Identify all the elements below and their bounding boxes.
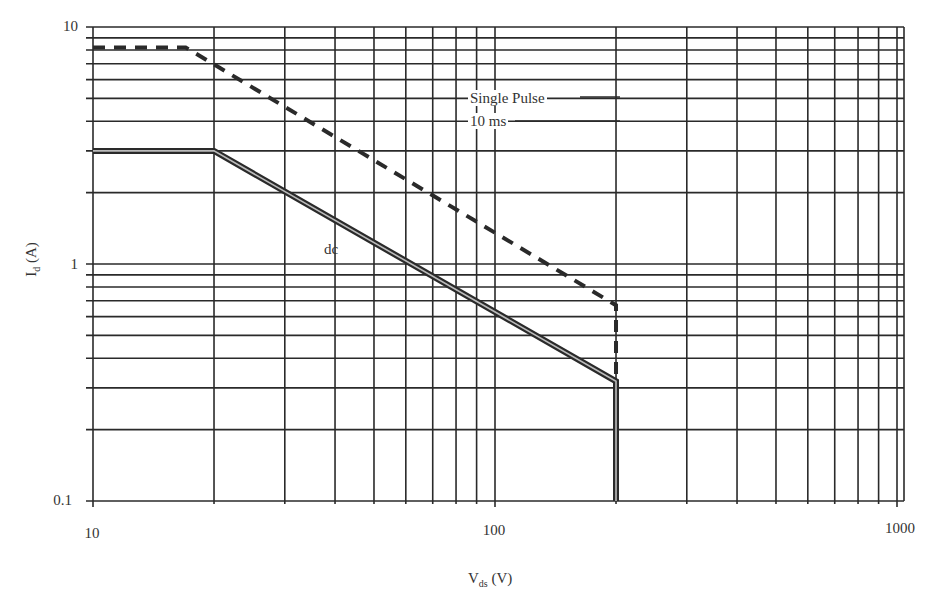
x-tick-1000: 1000 xyxy=(870,520,930,537)
y-tick-1: 1 xyxy=(38,256,78,273)
x-axis-title: Vds (V) xyxy=(468,570,512,589)
annotation-10ms: 10 ms xyxy=(468,113,508,129)
x-tick-100: 100 xyxy=(464,522,524,539)
annotation-single-pulse: Single Pulse xyxy=(468,90,547,106)
series-dc-inner xyxy=(93,151,616,501)
y-axis-title-unit: (A) xyxy=(23,242,39,267)
y-axis-title: Id (A) xyxy=(23,230,42,290)
annotation-dc: dc xyxy=(322,241,340,257)
x-tick-10: 10 xyxy=(62,525,122,542)
x-axis-title-unit: (V) xyxy=(488,570,513,586)
x-axis-title-sub: ds xyxy=(479,578,488,589)
x-axis-title-main: V xyxy=(468,570,479,586)
y-tick-10: 10 xyxy=(38,18,78,35)
y-tick-0-1: 0.1 xyxy=(32,492,72,509)
y-axis-title-sub: d xyxy=(31,267,42,272)
y-axis-title-main: I xyxy=(23,272,39,277)
series-dc-outer xyxy=(93,151,616,501)
